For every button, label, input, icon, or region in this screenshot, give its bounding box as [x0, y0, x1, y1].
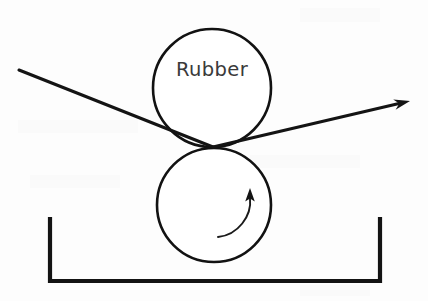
upper-roller-label: Rubber: [176, 58, 249, 81]
diagram-canvas: Rubber: [0, 0, 428, 301]
lower-applicator-roller: [157, 148, 271, 262]
roller-coating-diagram: Rubber: [0, 0, 428, 301]
